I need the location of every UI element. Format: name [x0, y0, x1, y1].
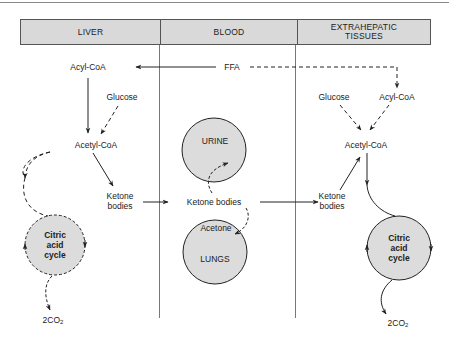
extra-acyl-coa: Acyl-CoA [372, 92, 422, 102]
diagram-arrows [0, 0, 449, 345]
blood-ketone-bodies: Ketone bodies [168, 197, 260, 207]
extra-co2-text: 2CO [388, 318, 405, 328]
liver-citric-cycle-label: Citric acid cycle [35, 230, 75, 260]
liver-acyl-coa: Acyl-CoA [60, 62, 116, 72]
acetone-label: Acetone [196, 223, 236, 233]
blood-ffa: FFA [217, 62, 247, 72]
liver-co2: 2CO2 [38, 315, 68, 327]
liver-ketone-bodies: Ketone bodies [100, 191, 140, 211]
lungs-label: LUNGS [190, 254, 240, 264]
liver-co2-text: 2CO [43, 315, 60, 325]
urine-circle [182, 118, 246, 182]
extra-citric-cycle-label: Citric acid cycle [379, 233, 419, 263]
extra-ketone-bodies: Ketone bodies [312, 191, 352, 211]
extra-co2-sub: 2 [405, 322, 408, 328]
liver-acetyl-coa: Acetyl-CoA [66, 140, 126, 150]
extra-co2: 2CO2 [383, 318, 413, 330]
extra-glucose: Glucose [314, 92, 354, 102]
liver-glucose: Glucose [102, 92, 142, 102]
liver-co2-sub: 2 [60, 319, 63, 325]
extra-acetyl-coa: Acetyl-CoA [336, 140, 396, 150]
urine-label: URINE [190, 136, 240, 146]
